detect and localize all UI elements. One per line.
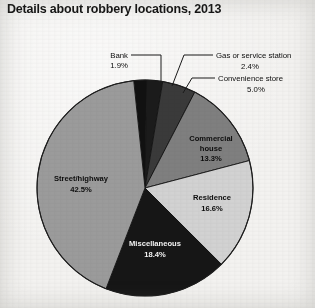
commercial-house-label-line2: house xyxy=(200,144,222,153)
commercial-house-label-line1: Commercial xyxy=(189,134,232,143)
commercial-house-value: 13.3% xyxy=(200,154,222,163)
miscellaneous-label: Miscellaneous xyxy=(129,239,181,248)
residence-value: 16.6% xyxy=(201,204,223,213)
pie-chart: Bank 1.9%Gas or service station 2.4%Conv… xyxy=(0,0,315,308)
bank-label: Bank xyxy=(110,51,128,60)
residence-label: Residence xyxy=(193,193,231,202)
bank-value: 1.9% xyxy=(110,61,128,70)
miscellaneous-value: 18.4% xyxy=(144,250,166,259)
gas-station-label: Gas or service station xyxy=(216,51,291,60)
chart-container: Details about robbery locations, 2013 Ba… xyxy=(0,0,315,308)
convenience-store-label: Convenience store xyxy=(218,74,283,83)
street-highway-value: 42.5% xyxy=(70,185,92,194)
gas-station-leader-line xyxy=(172,55,213,86)
convenience-store-value: 5.0% xyxy=(247,85,265,94)
street-highway-label: Street/highway xyxy=(54,174,109,183)
gas-station-value: 2.4% xyxy=(241,62,259,71)
